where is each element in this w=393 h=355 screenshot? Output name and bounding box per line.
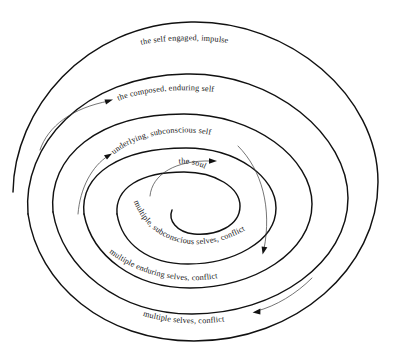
arrow-to-underlying-self-head	[104, 153, 112, 159]
arrow-to-multiple-selves-line	[257, 278, 312, 311]
arrow-to-underlying-self-line	[78, 156, 108, 214]
arrow-to-multiple-selves-head	[253, 309, 261, 315]
spiral-arm-outer	[13, 22, 378, 341]
spiral-diagram: the self engaged, impulse the composed, …	[0, 0, 393, 355]
arrow-to-subconscious-selves-head	[262, 246, 268, 254]
label-underlying-subconscious-self-text: underlying, subconscious self	[110, 125, 213, 156]
label-multiple-subconscious-selves-conflict: multiple, subconscious selves, conflict	[132, 199, 247, 246]
label-multiple-subconscious-selves-conflict-text: multiple, subconscious selves, conflict	[132, 199, 247, 246]
label-the-composed-enduring-self: the composed, enduring self	[116, 83, 215, 102]
label-underlying-subconscious-self: underlying, subconscious self	[110, 125, 213, 156]
arrow-to-soul-head	[209, 158, 217, 164]
arrow-to-composed-self-head	[105, 100, 114, 105]
spiral-diagram-canvas: the self engaged, impulse the composed, …	[0, 0, 393, 355]
label-multiple-enduring-selves-conflict-text: multiple enduring selves, conflict	[108, 247, 219, 282]
label-the-composed-enduring-self-text: the composed, enduring self	[116, 83, 215, 102]
arrow-to-composed-self	[40, 100, 113, 151]
label-the-self-engaged-text: the self engaged,	[140, 33, 202, 46]
label-multiple-selves-conflict: multiple selves, conflict	[142, 309, 225, 325]
label-multiple-enduring-selves-conflict: multiple enduring selves, conflict	[108, 247, 219, 282]
label-the-soul: the soul	[178, 157, 208, 171]
label-the-soul-text: the soul	[178, 157, 208, 171]
label-the-self-engaged-impulse: the self engaged, impulse	[140, 33, 229, 46]
spiral-arm-third	[53, 114, 312, 288]
label-multiple-selves-conflict-text: multiple selves, conflict	[142, 309, 225, 325]
arrow-to-composed-self-line	[40, 101, 109, 150]
spiral-arm-group	[13, 22, 378, 341]
label-impulse-emphasis: impulse	[201, 34, 229, 45]
